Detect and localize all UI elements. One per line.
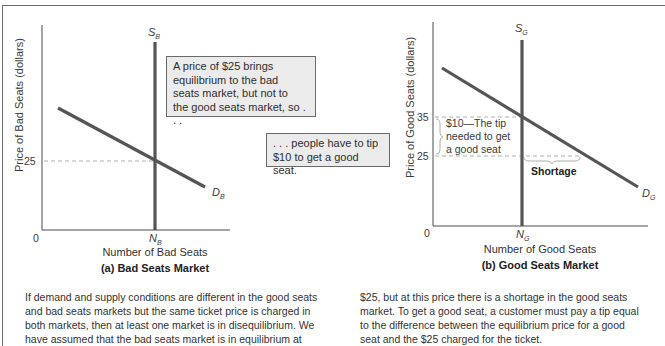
panel-a-y-label: Price of Bad Seats (dollars) [13,38,25,172]
panel-a-callout: A price of $25 brings equilibrium to the… [166,56,316,117]
panel-b-quantity-label: NG [516,228,530,242]
caption-line: have assumed that the bad seats market i… [25,332,325,346]
panel-a-demand-label: DB [212,186,225,200]
caption-line: market. To get a good seat, a customer m… [360,304,660,318]
panel-a-quantity-label: NB [149,232,162,246]
panel-b-y-label: Price of Good Seats (dollars) [404,37,416,178]
caption-left: If demand and supply conditions are diff… [25,290,325,346]
tip-annotation-line-3: a good seat [446,143,501,155]
callout-line: equilibrium to the bad [173,74,309,88]
panel-b-tick-35: 35 [417,111,429,123]
panel-a-title: (a) Bad Seats Market [70,262,240,274]
callout-line: A price of $25 brings [173,60,309,74]
panel-b-x-label: Number of Good Seats [450,243,630,255]
shortage-label: Shortage [531,165,577,177]
caption-line: seat and the $25 charged for the ticket. [360,332,660,346]
caption-line: to the difference between the equilibriu… [360,318,660,332]
panel-b-demand-label: DG [642,187,656,201]
panel-a-origin: 0 [33,232,39,244]
panel-b-chart: 35 25 0 Price of Good Seats (dollars) SG… [404,22,656,242]
caption-line: and bad seats markets but the same ticke… [25,304,325,318]
tip-brace-icon [436,119,443,154]
callout-line: $10 to get a good seat. [273,151,383,178]
callout-line: . . . people have to tip [273,137,383,151]
caption-right: $25, but at this price there is a shorta… [360,290,660,346]
callout-line: seats market, but not to [173,87,309,101]
callout-line: the good seats market, so . . . [173,101,309,128]
panel-b-tick-25: 25 [417,150,429,162]
tip-annotation-line-2: needed to get [446,130,510,142]
panel-b-origin: 0 [424,227,430,239]
panel-a-x-label: Number of Bad Seats [70,246,240,258]
panel-b-title: (b) Good Seats Market [450,259,630,271]
shortage-brace-icon [524,157,580,164]
caption-line: $25, but at this price there is a shorta… [360,290,660,304]
caption-line: both markets, then at least one market i… [25,318,325,332]
tip-annotation-line-1: $10—The tip [446,117,506,129]
panel-b-supply-label: SG [515,22,528,36]
panel-a-tick-25: 25 [24,155,36,167]
caption-line: If demand and supply conditions are diff… [25,290,325,304]
middle-callout: . . . people have to tip $10 to get a go… [266,133,390,167]
panel-a-supply-label: SB [148,26,160,40]
